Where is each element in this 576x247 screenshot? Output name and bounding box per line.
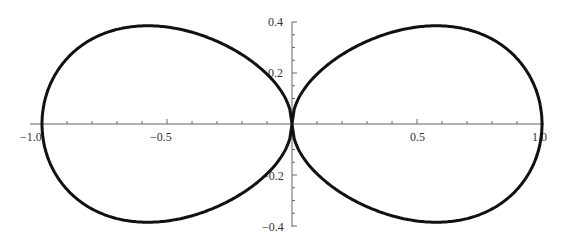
y-tick-label: −0.4 bbox=[262, 220, 284, 234]
x-tick-label: −1.0 bbox=[20, 130, 42, 144]
x-tick-label: 0.5 bbox=[410, 130, 425, 144]
plot: −1.0 −0.5 0.5 1.0 0.4 0.2 −0.2 −0.4 bbox=[0, 0, 576, 247]
y-tick-label: 0.4 bbox=[268, 15, 283, 29]
x-tick-label: −0.5 bbox=[150, 130, 172, 144]
